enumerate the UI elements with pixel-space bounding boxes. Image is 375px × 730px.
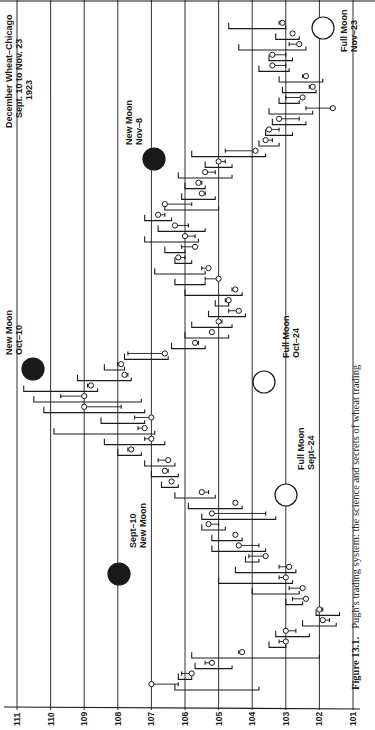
price-bar (185, 180, 205, 188)
price-bar (185, 330, 229, 338)
price-bar (145, 212, 172, 220)
price-bar (259, 138, 279, 146)
figure-caption: Figure 13.1.Pugh's trading system: the s… (350, 365, 361, 690)
price-bar (44, 404, 145, 412)
price-bar (175, 490, 215, 498)
full-moon-icon (275, 484, 297, 506)
price-bar (77, 372, 131, 380)
price-bar (202, 522, 226, 530)
price-bar (202, 511, 276, 519)
price-bar (215, 298, 231, 306)
new-moon-icon (108, 563, 130, 585)
price-tick-label: 109 (79, 712, 89, 726)
price-tick-label: 106 (180, 712, 190, 726)
moon-annotation-oct24: Full MoonOct–24 (281, 316, 301, 359)
price-tick-label: 107 (146, 712, 156, 726)
price-bar (282, 84, 316, 92)
price-bar (145, 234, 199, 242)
price-bar (175, 255, 192, 263)
price-bar (269, 106, 335, 114)
price-bar (286, 596, 309, 604)
price-bar (151, 468, 178, 476)
price-bar (219, 575, 293, 583)
price-bar (155, 266, 211, 274)
full-moon-icon (253, 371, 275, 393)
price-tick-label: 104 (247, 712, 257, 726)
moon-annotation-oct10: New MoonOct–10 (4, 310, 24, 355)
new-moon-icon (143, 148, 165, 170)
price-bar (192, 650, 320, 658)
full-moon-icon (312, 17, 334, 39)
price-bar (269, 52, 293, 60)
chart-year: 1923 (24, 14, 34, 128)
price-bar (209, 308, 246, 316)
new-moon-icon (22, 358, 44, 380)
price-bar (54, 426, 155, 434)
price-bar (235, 564, 295, 572)
price-bar (192, 148, 266, 156)
price-bar (269, 639, 288, 647)
price-bar (125, 351, 169, 359)
figure-caption-text: Pugh's trading system: the science and s… (350, 365, 361, 629)
price-bar (104, 362, 124, 370)
price-tick-label: 111 (12, 713, 22, 726)
figure-number: Figure 13.1. (350, 637, 361, 690)
price-tick-label: 108 (113, 712, 123, 726)
price-bar (279, 95, 305, 103)
price-bar (252, 586, 305, 594)
chart-date-range: Sept. 10 to Nov. 23 (14, 14, 24, 128)
price-bar (24, 383, 98, 391)
price-tick-label: 110 (46, 712, 56, 726)
price-bar (158, 223, 205, 231)
price-bar (104, 436, 164, 444)
price-bar (185, 287, 242, 295)
price-gridlines (0, 0, 375, 710)
price-bar (272, 116, 306, 124)
price-bar (212, 532, 242, 540)
chart-title: December Wheat–Chicago (4, 14, 14, 128)
price-bar (276, 31, 300, 39)
moon-annotation-nov8: New MoonNov–8 (124, 100, 144, 145)
moon-annotation-sept10: Sept–10New Moon (128, 503, 148, 548)
price-tick-label: 105 (214, 712, 224, 726)
price-bar (212, 543, 266, 551)
price-bar (145, 458, 175, 466)
price-bar (101, 415, 154, 423)
chart-title-block: December Wheat–Chicago Sept. 10 to Nov. … (4, 14, 34, 128)
price-bar (259, 63, 289, 71)
price-bar (175, 276, 221, 284)
price-bar (178, 170, 232, 178)
price-bar (161, 479, 178, 487)
moon-annotation-sept24: Full MoonSept–24 (296, 428, 316, 471)
price-bar (245, 554, 268, 562)
price-bar (34, 394, 142, 402)
price-tick-label: 102 (314, 712, 324, 726)
moon-markers (22, 17, 334, 585)
price-bar (276, 628, 310, 636)
moon-annotation-nov23: Full MoonNov–23 (339, 10, 359, 53)
price-bar (178, 671, 194, 679)
price-bar (229, 20, 286, 28)
price-bar (172, 340, 206, 348)
price-tick-label: 101 (348, 712, 358, 726)
price-bar (162, 202, 218, 210)
price-bar (182, 191, 216, 199)
price-bar (195, 660, 232, 668)
price-bar (239, 42, 306, 50)
price-tick-label: 103 (281, 712, 291, 726)
price-bar (188, 500, 242, 508)
rotated-price-chart (0, 0, 375, 730)
price-bar (192, 319, 232, 327)
price-bar (165, 244, 198, 252)
price-bar (118, 447, 142, 455)
price-bar (149, 682, 259, 690)
price-bar (266, 127, 293, 135)
